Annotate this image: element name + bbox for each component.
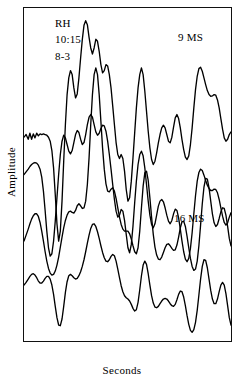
group-label-9ms: 9 MS	[178, 32, 203, 44]
annotation-subject: RH	[55, 18, 71, 30]
annotation-time: 10:15	[55, 34, 81, 46]
figure-container: RH 10:15 8-3 9 MS 16 MS Seconds Amplitud…	[0, 0, 244, 381]
x-axis-title: Seconds	[0, 364, 244, 376]
group-label-16ms: 16 MS	[174, 213, 205, 225]
annotation-code: 8-3	[55, 51, 70, 63]
y-axis-title: Amplitude	[5, 132, 17, 212]
plot-frame: RH 10:15 8-3 9 MS 16 MS	[23, 7, 232, 342]
